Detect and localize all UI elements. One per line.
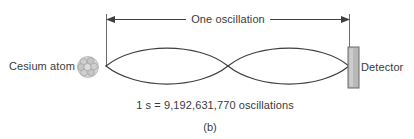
standing-wave-icon	[106, 48, 349, 84]
cesium-atom-icon	[78, 57, 99, 78]
cesium-atom-label: Cesium atom	[9, 60, 75, 72]
oscillation-equation-caption: 1 s = 9,192,631,770 oscillations	[0, 99, 414, 111]
panel-label: (b)	[0, 121, 414, 133]
detector-label: Detector	[361, 61, 403, 73]
detector-bar-icon	[348, 47, 359, 88]
one-oscillation-text: One oscillation	[186, 13, 270, 25]
one-oscillation-label: One oscillation	[0, 13, 414, 25]
cesium-clock-diagram: Cesium atom Detector One oscillation 1 s…	[0, 0, 414, 139]
